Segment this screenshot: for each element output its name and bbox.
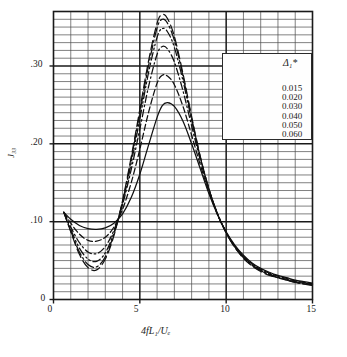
- legend-title: Δ₁*: [283, 57, 297, 68]
- y-tick-label-.10: .10: [31, 215, 43, 225]
- x-tick-label-0: 0: [48, 304, 53, 314]
- y-tick-label-0: 0: [41, 293, 46, 303]
- y-axis-label: J₃₃: [6, 148, 16, 158]
- x-axis-label: 4fL₁/Uₑ: [141, 325, 170, 336]
- legend-label-0.060: 0.060: [282, 129, 302, 139]
- x-tick-label-15: 15: [307, 304, 317, 314]
- y-tick-label-.30: .30: [31, 59, 43, 69]
- x-tick-label-10: 10: [220, 304, 230, 314]
- legend-entry-0.060: 0.060: [228, 130, 308, 141]
- x-tick-label-5: 5: [134, 304, 139, 314]
- y-tick-label-.20: .20: [31, 137, 43, 147]
